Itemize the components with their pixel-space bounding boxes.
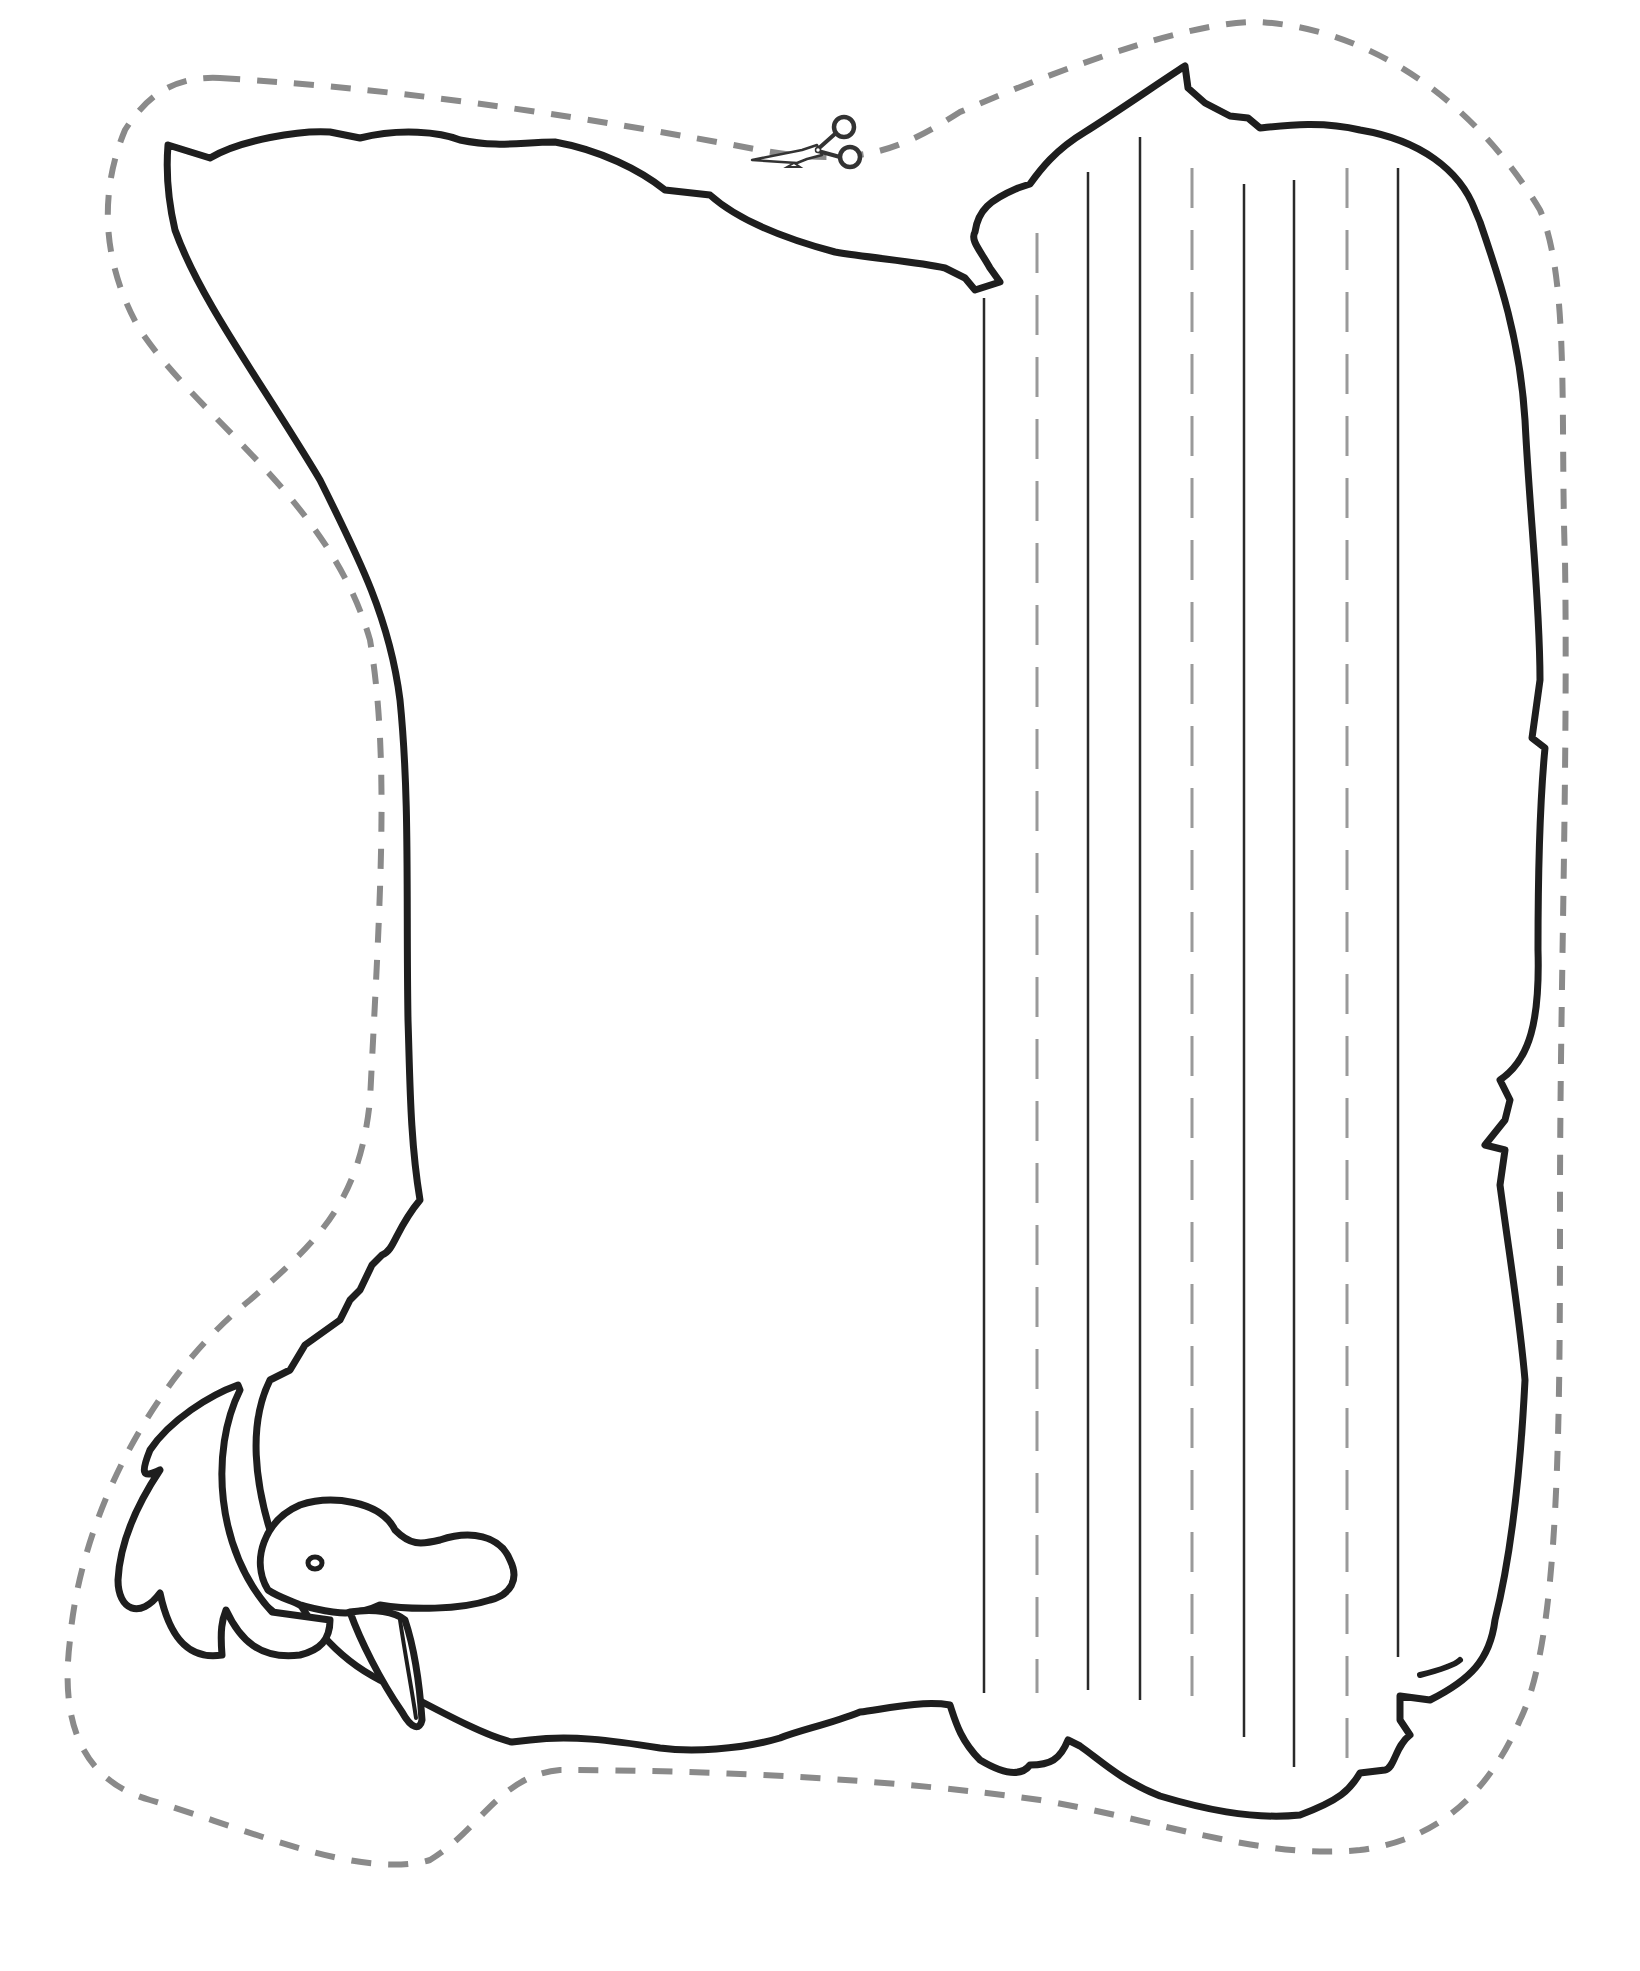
chicken-writing-template <box>0 0 1640 1971</box>
scissors-icon <box>752 117 860 167</box>
chicken-eye <box>308 1557 322 1569</box>
